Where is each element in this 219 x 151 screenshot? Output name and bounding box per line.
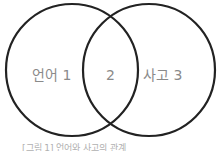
right-set-label: 사고 3 [143, 67, 182, 83]
left-circle-language [6, 4, 138, 136]
figure-caption: [그림 1] 언어와 사고의 관계 [22, 143, 126, 151]
left-set-label: 언어 1 [32, 67, 71, 83]
intersection-label: 2 [106, 67, 115, 83]
